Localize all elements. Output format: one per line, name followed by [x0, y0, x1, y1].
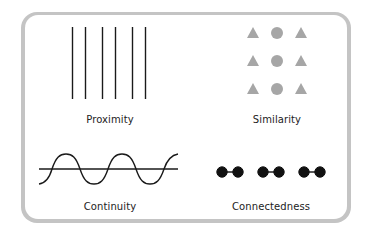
triangle-icon	[295, 27, 307, 38]
connectedness-dots-graphic	[217, 167, 325, 177]
dot-icon	[233, 167, 243, 177]
triangle-icon	[295, 55, 307, 66]
similarity-shapes-graphic	[247, 27, 307, 95]
continuity-label: Continuity	[50, 201, 170, 213]
proximity-label: Proximity	[50, 114, 170, 126]
circle-icon	[271, 83, 283, 95]
continuity-wave-graphic	[39, 154, 178, 184]
connectedness-label: Connectedness	[211, 201, 331, 213]
triangle-icon	[247, 83, 259, 94]
circle-icon	[271, 55, 283, 67]
dot-icon	[217, 167, 227, 177]
dot-icon	[315, 167, 325, 177]
similarity-label: Similarity	[217, 114, 337, 126]
triangle-icon	[295, 83, 307, 94]
circle-icon	[271, 27, 283, 39]
dot-icon	[274, 167, 284, 177]
dot-icon	[299, 167, 309, 177]
dot-icon	[258, 167, 268, 177]
triangle-icon	[247, 27, 259, 38]
proximity-lines-graphic	[73, 27, 146, 99]
triangle-icon	[247, 55, 259, 66]
